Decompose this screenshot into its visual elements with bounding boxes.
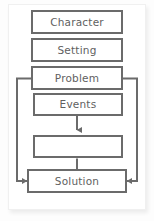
story-map-diagram: Character Setting Problem Events Solutio…	[0, 0, 154, 221]
node-label-setting: Setting	[58, 45, 97, 56]
node-label-solution: Solution	[55, 176, 99, 187]
node-label-events: Events	[60, 99, 97, 110]
node-label-problem: Problem	[55, 73, 99, 84]
node-box-problem[interactable]: Problem	[31, 66, 123, 90]
node-box-solution[interactable]: Solution	[27, 169, 127, 193]
node-box-blank[interactable]	[33, 135, 123, 158]
node-box-setting[interactable]: Setting	[31, 38, 123, 62]
connector-problem-right-loop	[123, 79, 138, 182]
node-label-character: Character	[50, 17, 104, 28]
node-box-character[interactable]: Character	[31, 10, 123, 34]
connector-problem-left-loop	[17, 79, 32, 182]
node-box-events[interactable]: Events	[33, 93, 123, 116]
